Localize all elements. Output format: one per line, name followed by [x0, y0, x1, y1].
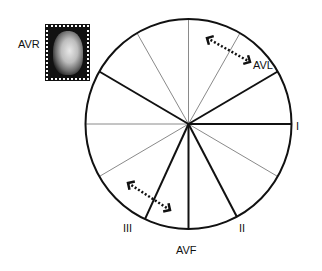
- label-i: I: [296, 121, 299, 132]
- thin-axis-line: [137, 33, 189, 124]
- portrait-face: [53, 31, 83, 75]
- label-ii: II: [239, 223, 245, 234]
- label-avf: AVF: [176, 245, 197, 256]
- lower-double-arrow-icon: [128, 182, 170, 212]
- thin-axis-line: [99, 124, 188, 177]
- lead-axis-lines: [99, 72, 291, 230]
- lead-line-iii: [145, 124, 189, 219]
- portrait-stamp: [46, 25, 89, 80]
- label-avl: AVL: [253, 60, 273, 71]
- thin-axis-line: [189, 33, 241, 124]
- label-iii: III: [123, 223, 132, 234]
- lead-line-avr: [99, 72, 188, 125]
- lead-line-avl: [189, 72, 278, 125]
- thin-axis-lines: [86, 19, 278, 177]
- label-avr: AVR: [18, 39, 40, 50]
- upper-double-arrow-icon: [207, 36, 250, 64]
